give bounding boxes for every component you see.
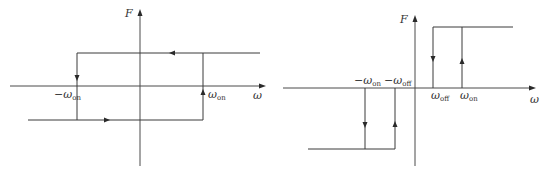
left-diagram: F ω −ωon ωon [10,7,266,166]
arrow-down-icon [363,122,368,128]
threshold-label-off: ωoff [431,89,450,103]
right-diagram: F ω −ωon −ωoff ωoff ωon [283,13,539,166]
threshold-label-on: ωon [460,89,478,103]
y-axis-arrow-icon [138,9,143,16]
x-axis-label: ω [530,93,539,106]
hysteresis-figure: F ω −ωon ωon F ω −ωon [0,0,546,179]
arrow-left-icon [169,51,175,56]
arrow-up-icon [460,58,465,64]
x-axis-arrow-icon [529,86,536,91]
arrow-down-icon [75,75,80,81]
threshold-label-neg-on: −ωon [354,74,381,88]
y-axis-arrow-icon [413,15,418,22]
arrow-up-icon [393,121,398,127]
y-axis-label: F [399,13,408,26]
threshold-label-neg-off: −ωoff [384,74,412,88]
x-axis-label: ω [253,89,262,102]
arrow-right-icon [104,118,110,123]
threshold-label-on: ωon [208,88,226,102]
x-axis-arrow-icon [259,84,266,89]
arrow-up-icon [201,89,206,95]
arrow-down-icon [431,56,436,62]
y-axis-label: F [124,7,133,20]
